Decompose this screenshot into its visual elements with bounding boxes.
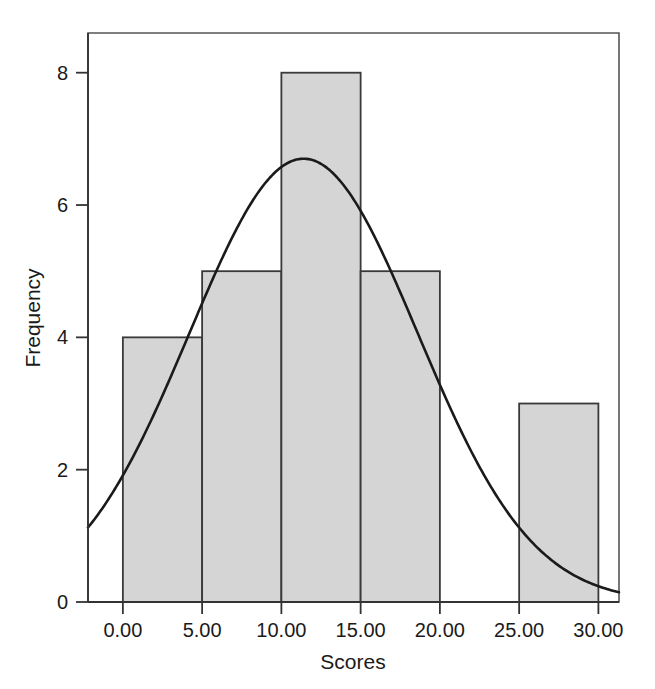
y-axis-tick-label: 6 bbox=[57, 194, 68, 216]
x-axis-tick-label: 25.00 bbox=[494, 619, 544, 641]
histogram-bar bbox=[519, 404, 598, 602]
x-axis-title: Scores bbox=[320, 650, 385, 673]
x-axis-ticks: 0.005.0010.0015.0020.0025.0030.00 bbox=[103, 602, 623, 641]
x-axis-tick-label: 15.00 bbox=[336, 619, 386, 641]
x-axis-tick-label: 20.00 bbox=[415, 619, 465, 641]
y-axis-tick-label: 8 bbox=[57, 62, 68, 84]
y-axis-ticks: 02468 bbox=[57, 62, 88, 613]
y-axis-tick-label: 0 bbox=[57, 591, 68, 613]
histogram-bar bbox=[123, 337, 202, 602]
histogram-figure: 02468 0.005.0010.0015.0020.0025.0030.00 … bbox=[0, 0, 655, 689]
x-axis-tick-label: 30.00 bbox=[573, 619, 623, 641]
y-axis-tick-label: 2 bbox=[57, 459, 68, 481]
histogram-bar bbox=[281, 73, 360, 602]
x-axis-tick-label: 5.00 bbox=[183, 619, 222, 641]
y-axis-title: Frequency bbox=[21, 268, 44, 368]
x-axis-tick-label: 0.00 bbox=[103, 619, 142, 641]
x-axis-tick-label: 10.00 bbox=[256, 619, 306, 641]
y-axis-tick-label: 4 bbox=[57, 326, 68, 348]
histogram-chart: 02468 0.005.0010.0015.0020.0025.0030.00 … bbox=[0, 0, 655, 689]
histogram-bar bbox=[202, 271, 281, 602]
histogram-bar bbox=[361, 271, 440, 602]
